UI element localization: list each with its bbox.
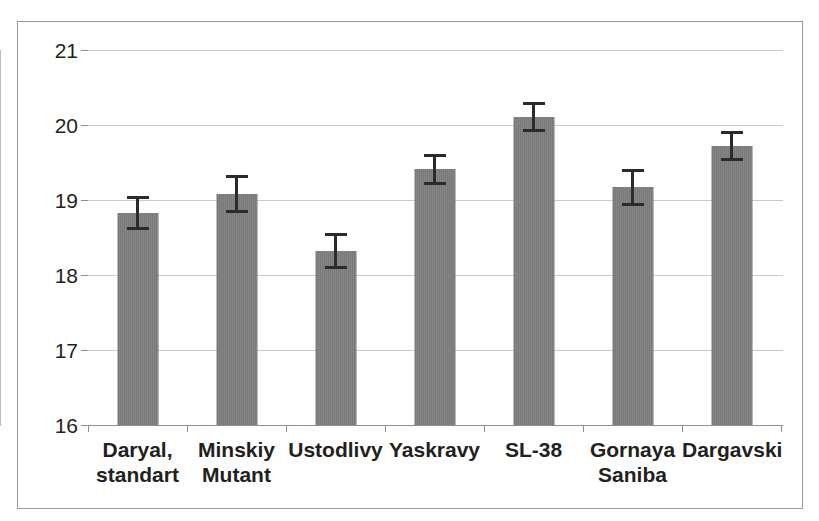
error-bar-stem xyxy=(235,175,238,213)
y-tick-label-21: 21 xyxy=(24,40,78,61)
error-bar-cap-bottom xyxy=(325,266,347,269)
bar-gornaya-saniba[interactable] xyxy=(612,187,653,425)
y-tick-label-17: 17 xyxy=(24,340,78,361)
error-bar-cap-top xyxy=(127,196,149,199)
x-tick-mark-4 xyxy=(484,425,485,432)
x-axis-line xyxy=(88,425,783,426)
x-tick-mark-6 xyxy=(682,425,683,432)
x-label-0: Daryal,standart xyxy=(88,437,187,487)
error-bar-stem xyxy=(532,102,535,132)
error-bar-cap-top xyxy=(226,175,248,178)
x-tick-mark-3 xyxy=(385,425,386,432)
bar-chart: 21 20 19 18 17 16 xyxy=(0,0,819,521)
bar-group-6[interactable] xyxy=(682,50,781,425)
x-tick-mark-0 xyxy=(88,425,89,432)
x-label-3: Yaskravy xyxy=(385,437,484,462)
error-bar-stem xyxy=(433,154,436,186)
x-label-1: MinskiyMutant xyxy=(187,437,286,487)
y-axis-line xyxy=(0,50,1,426)
y-tick-mark-17 xyxy=(81,350,88,351)
y-tick-mark-16 xyxy=(81,425,88,426)
error-bar-cap-bottom xyxy=(523,129,545,132)
x-label-6: Dargavski xyxy=(682,437,781,462)
y-tick-mark-18 xyxy=(81,275,88,276)
error-bar-cap-bottom xyxy=(721,158,743,161)
error-bar-cap-bottom xyxy=(127,227,149,230)
y-tick-label-19: 19 xyxy=(24,190,78,211)
bar-group-1[interactable] xyxy=(187,50,286,425)
bar-dargavski[interactable] xyxy=(711,146,752,425)
bar-daryal-standart[interactable] xyxy=(117,213,158,425)
error-bar-5 xyxy=(622,169,644,207)
bars-layer xyxy=(88,50,783,425)
bar-group-5[interactable] xyxy=(583,50,682,425)
error-bar-cap-top xyxy=(523,102,545,105)
y-axis-labels: 21 20 19 18 17 16 xyxy=(20,0,78,521)
x-tick-mark-2 xyxy=(286,425,287,432)
bar-group-2[interactable] xyxy=(286,50,385,425)
bar-group-4[interactable] xyxy=(484,50,583,425)
error-bar-stem xyxy=(334,233,337,269)
bar-group-0[interactable] xyxy=(88,50,187,425)
x-tick-mark-5 xyxy=(583,425,584,432)
error-bar-6 xyxy=(721,131,743,161)
error-bar-cap-bottom xyxy=(226,210,248,213)
x-tick-mark-1 xyxy=(187,425,188,432)
y-tick-mark-20 xyxy=(81,125,88,126)
y-tick-label-16: 16 xyxy=(24,415,78,436)
error-bar-cap-bottom xyxy=(424,182,446,185)
x-tick-mark-7 xyxy=(781,425,782,432)
bar-yaskravy[interactable] xyxy=(414,169,455,425)
error-bar-4 xyxy=(523,102,545,132)
y-tick-label-20: 20 xyxy=(24,115,78,136)
error-bar-cap-top xyxy=(622,169,644,172)
error-bar-stem xyxy=(631,169,634,207)
error-bar-cap-top xyxy=(325,233,347,236)
error-bar-stem xyxy=(730,131,733,161)
y-tick-mark-19 xyxy=(81,200,88,201)
error-bar-stem xyxy=(136,196,139,231)
bar-group-3[interactable] xyxy=(385,50,484,425)
error-bar-1 xyxy=(226,175,248,213)
error-bar-3 xyxy=(424,154,446,186)
x-label-4: SL-38 xyxy=(484,437,583,462)
bar-minskiy-mutant[interactable] xyxy=(216,194,257,425)
error-bar-cap-top xyxy=(721,131,743,134)
error-bar-2 xyxy=(325,233,347,269)
y-tick-label-18: 18 xyxy=(24,265,78,286)
y-tick-mark-21 xyxy=(81,50,88,51)
bar-ustodlivy[interactable] xyxy=(315,251,356,425)
bar-sl-38[interactable] xyxy=(513,117,554,425)
x-axis-labels: Daryal,standart MinskiyMutant Ustodlivy … xyxy=(88,437,783,507)
x-label-2: Ustodlivy xyxy=(286,437,385,462)
error-bar-cap-top xyxy=(424,154,446,157)
error-bar-cap-bottom xyxy=(622,203,644,206)
x-label-5: GornayaSaniba xyxy=(583,437,682,487)
error-bar-0 xyxy=(127,196,149,231)
